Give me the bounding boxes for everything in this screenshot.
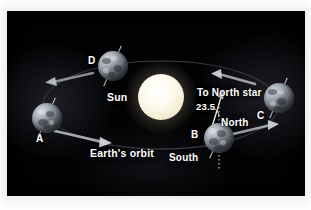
sun-disc <box>138 74 184 120</box>
north-pole-label: North <box>221 117 249 128</box>
earth-c-label: C <box>257 110 264 121</box>
south-pole-label: South <box>169 152 198 163</box>
earth-b-label: B <box>191 129 198 140</box>
sun-label: Sun <box>107 91 127 103</box>
earth-c-surface-texture <box>264 83 294 113</box>
tilt-angle-label: 23.5 <box>196 101 215 112</box>
earth-d-surface-texture <box>98 51 128 81</box>
earth-c <box>264 83 294 113</box>
orbit-diagram-figure: Sun D A <box>0 0 311 210</box>
earth-a-label: A <box>36 133 43 144</box>
earth-d-label: D <box>88 55 95 66</box>
sun <box>138 74 184 120</box>
earth-d <box>98 51 128 81</box>
earth-a <box>32 103 62 133</box>
orbit-arrow-upper-left <box>45 73 93 86</box>
orbit-arrow-lower-left <box>55 131 112 148</box>
to-north-star-label: To North star <box>197 87 262 98</box>
earth-a-surface-texture <box>32 103 62 133</box>
orbit-arrow-upper-right <box>211 69 255 84</box>
earth-orbit-label: Earth's orbit <box>90 147 154 159</box>
space-panel: Sun D A <box>7 11 305 196</box>
